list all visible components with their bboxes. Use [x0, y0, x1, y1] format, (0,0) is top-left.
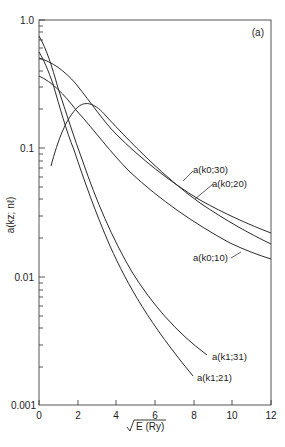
svg-text:a(k1;31): a(k1;31): [212, 351, 247, 362]
y-axis-title: a(kz; nℓ): [5, 197, 16, 234]
svg-text:a(k1;21): a(k1;21): [197, 372, 232, 383]
x-tick-label: 2: [75, 410, 81, 421]
x-tick-label: 12: [265, 410, 277, 421]
x-axis-ticks: [39, 400, 271, 405]
svg-text:E (Ry): E (Ry): [136, 421, 164, 432]
x-tick-label: 0: [36, 410, 42, 421]
svg-text:a(k0;10): a(k0;10): [193, 252, 228, 263]
label-a-k0-10: a(k0;10): [193, 252, 241, 263]
y-axis-ticks: [39, 20, 45, 367]
chart-canvas: 1.0 0.1 0.01 0.001 0 2 4 6 8 10 12 E (Ry…: [0, 0, 285, 447]
svg-text:a(k0;20): a(k0;20): [212, 178, 247, 189]
y-tick-label: 0.1: [20, 143, 34, 154]
svg-text:a(k0;30): a(k0;30): [193, 164, 228, 175]
plot-frame: [39, 20, 271, 405]
curve-a-k0-30: [39, 58, 271, 233]
curve-a-k1-31: [39, 36, 207, 355]
label-a-k1-21: a(k1;21): [197, 372, 232, 383]
x-tick-label: 6: [152, 410, 158, 421]
y-tick-label: 0.001: [11, 400, 36, 411]
x-tick-label: 4: [113, 410, 119, 421]
x-axis-title: E (Ry): [127, 420, 166, 432]
label-a-k0-20: a(k0;20): [195, 178, 247, 199]
label-a-k1-31: a(k1;31): [212, 351, 247, 362]
curve-a-k0-10: [39, 76, 271, 259]
y-tick-label: 1.0: [20, 15, 34, 26]
x-tick-label: 10: [226, 410, 238, 421]
panel-label: (a): [252, 27, 264, 38]
x-tick-label: 8: [191, 410, 197, 421]
y-tick-label: 0.01: [15, 272, 35, 283]
